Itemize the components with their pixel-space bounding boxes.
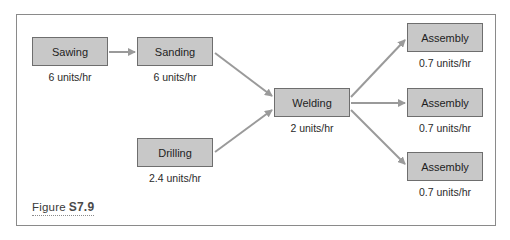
node-assembly-top: Assembly (407, 23, 483, 52)
node-assembly-top-label: Assembly (421, 32, 469, 44)
node-sawing: Sawing (32, 37, 108, 66)
figure-caption: FigureS7.9 (32, 200, 94, 216)
arrow-welding-to-assembly-bottom (351, 110, 405, 164)
rate-welding: 2 units/hr (257, 122, 367, 134)
node-welding-label: Welding (292, 97, 332, 109)
node-drilling-label: Drilling (158, 147, 192, 159)
node-assembly-bottom: Assembly (407, 152, 483, 181)
rate-sawing: 6 units/hr (15, 71, 125, 83)
node-assembly-middle: Assembly (407, 88, 483, 117)
rate-assembly-top: 0.7 units/hr (390, 57, 500, 69)
node-assembly-middle-label: Assembly (421, 97, 469, 109)
rate-sanding: 6 units/hr (120, 71, 230, 83)
node-sawing-label: Sawing (52, 46, 88, 58)
node-assembly-bottom-label: Assembly (421, 161, 469, 173)
node-sanding-label: Sanding (155, 46, 195, 58)
rate-assembly-bottom: 0.7 units/hr (390, 186, 500, 198)
node-sanding: Sanding (137, 37, 213, 66)
rate-drilling: 2.4 units/hr (120, 172, 230, 184)
node-welding: Welding (274, 88, 350, 117)
figure-caption-number: S7.9 (69, 200, 95, 214)
rate-assembly-middle: 0.7 units/hr (390, 122, 500, 134)
node-drilling: Drilling (137, 138, 213, 167)
figure-caption-label: Figure (32, 201, 66, 213)
